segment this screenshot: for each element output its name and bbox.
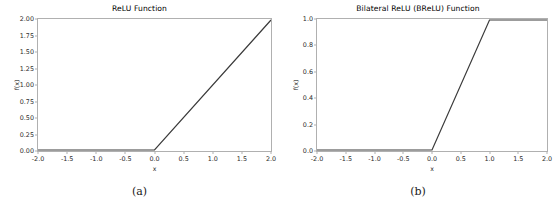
- y-tick-label: 0.2: [303, 121, 313, 129]
- x-tick-mark: [183, 151, 184, 154]
- y-axis-label-brelu: f(x): [292, 80, 299, 91]
- x-axis-label-brelu: x: [430, 165, 434, 172]
- y-tick-mark: [35, 85, 38, 86]
- x-tick-label: 0.5: [456, 155, 466, 163]
- plot-area-relu: f(x) x -2.0-1.5-1.0-0.50.00.51.01.52.00.…: [37, 18, 272, 152]
- y-tick-label: 0.6: [303, 68, 313, 76]
- subfigure-caption-b: (b): [279, 185, 557, 198]
- x-tick-label: -0.5: [397, 155, 409, 163]
- y-tick-mark: [314, 45, 317, 46]
- x-tick-label: 1.0: [208, 155, 218, 163]
- x-tick-mark: [154, 151, 155, 154]
- y-tick-label: 0.50: [20, 114, 34, 122]
- x-tick-label: 2.0: [266, 155, 276, 163]
- y-tick-mark: [314, 71, 317, 72]
- x-tick-label: 1.0: [484, 155, 494, 163]
- brelu-curve: [317, 19, 547, 151]
- x-tick-label: -2.0: [311, 155, 323, 163]
- panel-brelu: Bilateral ReLU (BReLU) Function f(x) x -…: [279, 0, 557, 208]
- x-tick-label: -0.5: [119, 155, 131, 163]
- y-tick-label: 0.0: [303, 147, 313, 155]
- y-tick-mark: [314, 151, 317, 152]
- x-tick-mark: [345, 151, 346, 154]
- x-tick-label: 1.5: [237, 155, 247, 163]
- y-tick-label: 1.0: [303, 15, 313, 23]
- x-tick-label: 1.5: [513, 155, 523, 163]
- y-tick-label: 0.4: [303, 94, 313, 102]
- y-tick-mark: [35, 118, 38, 119]
- figure-container: ReLU Function f(x) x -2.0-1.5-1.0-0.50.0…: [0, 0, 557, 208]
- x-tick-mark: [212, 151, 213, 154]
- y-tick-label: 0.25: [20, 131, 34, 139]
- x-tick-mark: [374, 151, 375, 154]
- x-tick-label: -1.5: [61, 155, 73, 163]
- y-tick-label: 0.00: [20, 147, 34, 155]
- x-tick-mark: [489, 151, 490, 154]
- x-tick-label: 0.5: [179, 155, 189, 163]
- panel-relu: ReLU Function f(x) x -2.0-1.5-1.0-0.50.0…: [0, 0, 279, 208]
- y-tick-mark: [314, 98, 317, 99]
- y-tick-label: 0.8: [303, 41, 313, 49]
- x-tick-mark: [96, 151, 97, 154]
- chart-title-relu: ReLU Function: [0, 4, 279, 13]
- y-tick-label: 1.50: [20, 48, 34, 56]
- y-tick-mark: [35, 19, 38, 20]
- x-tick-mark: [403, 151, 404, 154]
- y-tick-mark: [35, 134, 38, 135]
- x-tick-mark: [432, 151, 433, 154]
- x-tick-label: -1.5: [340, 155, 352, 163]
- subfigure-caption-a: (a): [0, 185, 279, 198]
- x-tick-label: 2.0: [542, 155, 552, 163]
- x-tick-mark: [271, 151, 272, 154]
- chart-title-brelu: Bilateral ReLU (BReLU) Function: [279, 4, 557, 13]
- x-tick-mark: [547, 151, 548, 154]
- x-tick-label: -1.0: [368, 155, 380, 163]
- y-tick-label: 1.25: [20, 65, 34, 73]
- y-tick-mark: [35, 151, 38, 152]
- x-axis-label-relu: x: [153, 165, 157, 172]
- x-tick-mark: [67, 151, 68, 154]
- x-tick-label: 0.0: [427, 155, 437, 163]
- y-tick-mark: [35, 68, 38, 69]
- y-tick-mark: [35, 101, 38, 102]
- y-tick-mark: [314, 19, 317, 20]
- y-tick-label: 1.00: [20, 81, 34, 89]
- y-tick-label: 2.00: [20, 15, 34, 23]
- x-tick-mark: [125, 151, 126, 154]
- x-tick-label: 0.0: [149, 155, 159, 163]
- y-tick-mark: [35, 52, 38, 53]
- x-tick-label: -2.0: [32, 155, 44, 163]
- y-tick-label: 0.75: [20, 98, 34, 106]
- x-tick-mark: [460, 151, 461, 154]
- x-tick-label: -1.0: [90, 155, 102, 163]
- x-tick-mark: [518, 151, 519, 154]
- y-tick-mark: [314, 124, 317, 125]
- y-tick-mark: [35, 35, 38, 36]
- plot-area-brelu: f(x) x -2.0-1.5-1.0-0.50.00.51.01.52.00.…: [316, 18, 548, 152]
- x-tick-mark: [241, 151, 242, 154]
- y-tick-label: 1.75: [20, 32, 34, 40]
- page-bottom-cropped-text: [0, 204, 557, 208]
- relu-curve: [38, 19, 271, 151]
